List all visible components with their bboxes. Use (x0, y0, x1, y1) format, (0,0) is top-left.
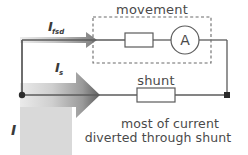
junction-node-left (19, 92, 25, 98)
label-current-fsd: I fsd (48, 19, 65, 36)
diagram-canvas: movement shunt A I fsd I s I most of cur… (0, 0, 248, 155)
junction-node-right (224, 92, 230, 98)
current-total-symbol: I (11, 122, 16, 138)
caption-line-1: most of current (121, 116, 219, 131)
current-fsd-subscript: fsd (52, 28, 65, 36)
meter-resistor (125, 33, 153, 47)
label-current-shunt: I s (55, 60, 63, 77)
current-shunt-subscript: s (59, 69, 63, 77)
movement-label: movement (116, 2, 188, 17)
circuit-diagram: movement shunt A I fsd I s I most of cur… (0, 0, 248, 155)
shunt-label: shunt (137, 73, 175, 88)
caption-line-2: diverted through shunt (85, 130, 232, 145)
shunt-resistor (137, 88, 175, 102)
ammeter-letter: A (180, 32, 190, 48)
